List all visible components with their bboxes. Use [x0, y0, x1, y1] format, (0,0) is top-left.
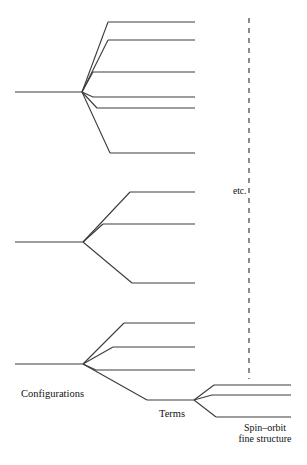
etc-label: etc.	[233, 186, 246, 196]
axis-label-terms: Terms	[159, 408, 185, 419]
configuration-group-middle	[15, 192, 195, 283]
axis-label-configurations: Configurations	[21, 388, 84, 399]
configuration-group-top	[15, 22, 195, 153]
branch-line-fs3	[194, 400, 216, 417]
branch-line-b1	[83, 323, 124, 364]
branch-line-m2	[83, 224, 103, 242]
fine-structure-group	[194, 385, 291, 417]
spin-orbit-label-line2: fine structure	[228, 434, 302, 445]
branch-line-m3	[83, 242, 132, 283]
branch-line-b4	[83, 364, 147, 400]
branch-line-t6	[82, 92, 110, 153]
axis-label-spin-orbit-fine-structure: Spin–orbit fine structure	[228, 423, 302, 445]
branch-line-t3	[82, 72, 93, 92]
branch-line-m1	[83, 192, 130, 242]
branch-line-t1	[82, 22, 108, 92]
energy-level-diagram: Configurations Terms etc. Spin–orbit fin…	[0, 0, 307, 465]
branch-line-t5	[82, 92, 97, 108]
